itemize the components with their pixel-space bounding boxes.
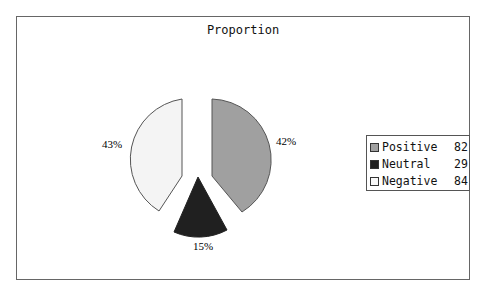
legend-label: Neutral — [382, 157, 430, 171]
pie-slice-neutral — [174, 177, 227, 237]
pie-slice-negative — [130, 99, 182, 211]
chart-legend: Positive 82 Neutral 29 Negative 84 — [366, 135, 470, 191]
label-positive: 42% — [276, 135, 296, 147]
legend-item-negative: Negative 84 — [370, 173, 437, 189]
pie-slice-positive — [212, 99, 271, 212]
legend-swatch-neutral — [370, 160, 379, 169]
label-negative: 43% — [102, 138, 122, 150]
label-neutral: 15% — [193, 240, 213, 252]
legend-label: Negative — [382, 174, 437, 188]
legend-item-positive: Positive 82 — [370, 139, 437, 155]
legend-value: 84 — [454, 173, 468, 189]
legend-item-neutral: Neutral 29 — [370, 156, 430, 172]
legend-swatch-negative — [370, 177, 379, 186]
legend-swatch-positive — [370, 143, 379, 152]
legend-value: 29 — [454, 156, 468, 172]
legend-value: 82 — [454, 139, 468, 155]
legend-label: Positive — [382, 140, 437, 154]
